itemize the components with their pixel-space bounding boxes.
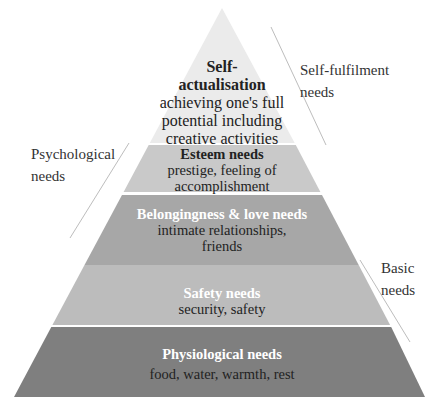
layer-title: Self- (140, 58, 304, 76)
layer-description: friends (100, 238, 344, 254)
layer-safety-text: Safety needs security, safety (122, 285, 322, 317)
layer-title: Belongingness & love needs (100, 206, 344, 222)
layer-description: prestige, feeling of (122, 162, 322, 178)
layer-description: achieving one's full (140, 94, 304, 112)
layer-title: actualisation (140, 76, 304, 94)
group-label-self-fulfilment: Self-fulfilment needs (300, 60, 389, 104)
layer-description: creative activities (140, 130, 304, 148)
layer-description: intimate relationships, (100, 222, 344, 238)
layer-description: accomplishment (122, 178, 322, 194)
layer-physiological-text: Physiological needs food, water, warmth,… (122, 345, 322, 384)
group-label-line: Self-fulfilment (300, 60, 389, 82)
layer-belongingness-text: Belongingness & love needs intimate rela… (100, 206, 344, 255)
layer-description: food, water, warmth, rest (122, 365, 322, 385)
layer-esteem-text: Esteem needs prestige, feeling of accomp… (122, 146, 322, 195)
layer-description: potential including (140, 112, 304, 130)
layer-title: Esteem needs (122, 146, 322, 162)
group-label-line: needs (31, 166, 115, 188)
group-label-line: Psychological (31, 144, 115, 166)
group-label-basic: Basic needs (381, 258, 415, 302)
layer-title: Physiological needs (122, 345, 322, 365)
layer-description: security, safety (122, 301, 322, 317)
group-label-line: Basic (381, 258, 415, 280)
layer-self-actualisation-text: Self- actualisation achieving one's full… (140, 58, 304, 148)
group-label-line: needs (300, 82, 389, 104)
group-label-psychological: Psychological needs (31, 144, 115, 188)
layer-title: Safety needs (122, 285, 322, 301)
group-label-line: needs (381, 280, 415, 302)
